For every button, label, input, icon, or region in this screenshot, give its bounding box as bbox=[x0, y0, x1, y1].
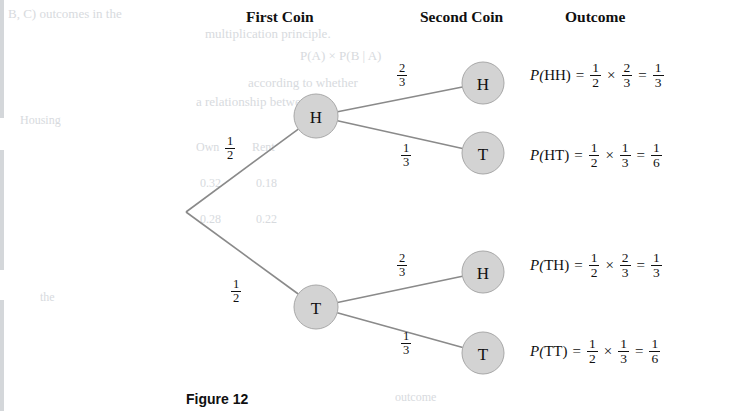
branch-probability-fraction: 23 bbox=[397, 62, 407, 89]
probability-close-paren: ) bbox=[566, 67, 571, 84]
fraction-denominator: 3 bbox=[653, 76, 664, 90]
outcome-factor-one: 12 bbox=[589, 141, 600, 170]
outcome-event-label: TT bbox=[544, 343, 562, 360]
equals-sign-result: = bbox=[637, 257, 645, 274]
outcome-factor-one: 12 bbox=[587, 337, 598, 366]
probability-function-label: P( bbox=[530, 257, 544, 274]
branch-h-to-h bbox=[338, 87, 463, 112]
outcome-event-label: HH bbox=[544, 67, 566, 84]
outcome-equation-p-hh: P(HH)=12×23=13 bbox=[530, 61, 665, 90]
branch-probability-fraction: 13 bbox=[401, 142, 411, 169]
branch-probability-h-to-t: 13 bbox=[400, 142, 412, 169]
fraction-denominator: 2 bbox=[590, 76, 601, 90]
fraction-numerator: 1 bbox=[589, 141, 600, 156]
fraction-denominator: 2 bbox=[225, 149, 235, 162]
node-label-tt: T bbox=[478, 345, 489, 364]
fraction-numerator: 1 bbox=[401, 142, 411, 156]
outcome-factor-two: 23 bbox=[620, 251, 631, 280]
probability-close-paren: ) bbox=[564, 257, 569, 274]
probability-function-label: P( bbox=[530, 147, 544, 164]
probability-function-label: P( bbox=[530, 67, 544, 84]
fraction-numerator: 1 bbox=[401, 330, 411, 344]
fraction-denominator: 3 bbox=[622, 76, 633, 90]
fraction-numerator: 2 bbox=[622, 61, 633, 76]
tree-node-t1: T bbox=[294, 285, 338, 329]
column-heading-outcome: Outcome bbox=[565, 8, 625, 26]
branch-probability-fraction: 12 bbox=[231, 278, 241, 305]
branch-probability-h-to-h: 23 bbox=[396, 62, 408, 89]
fraction-denominator: 3 bbox=[620, 266, 631, 280]
equals-sign: = bbox=[574, 147, 582, 164]
fraction-denominator: 2 bbox=[231, 292, 241, 305]
node-label-h1: H bbox=[310, 108, 322, 127]
column-heading-first-coin: First Coin bbox=[246, 8, 314, 26]
figure-caption: Figure 12 bbox=[186, 391, 248, 407]
tree-node-th: H bbox=[462, 251, 504, 293]
branch-probability-fraction: 23 bbox=[397, 252, 407, 279]
tree-node-ht: T bbox=[462, 132, 504, 174]
fraction-denominator: 3 bbox=[651, 266, 662, 280]
fraction-denominator: 3 bbox=[618, 352, 629, 366]
fraction-numerator: 1 bbox=[225, 135, 235, 149]
column-heading-second-coin: Second Coin bbox=[420, 8, 503, 26]
equals-sign: = bbox=[574, 257, 582, 274]
fraction-numerator: 1 bbox=[620, 141, 631, 156]
fraction-numerator: 1 bbox=[651, 141, 662, 156]
fraction-numerator: 1 bbox=[589, 251, 600, 266]
tree-nodes: HTHTHT bbox=[294, 62, 504, 374]
fraction-numerator: 1 bbox=[231, 278, 241, 292]
branch-probability-t-to-h: 23 bbox=[396, 252, 408, 279]
multiplication-sign: × bbox=[604, 343, 612, 360]
tree-node-tt: T bbox=[462, 332, 504, 374]
outcome-event-label: TH bbox=[544, 257, 564, 274]
fraction-numerator: 1 bbox=[653, 61, 664, 76]
branch-probability-fraction: 12 bbox=[225, 135, 235, 162]
fraction-denominator: 3 bbox=[397, 266, 407, 279]
equals-sign-result: = bbox=[638, 67, 646, 84]
tree-node-h1: H bbox=[294, 94, 338, 138]
fraction-denominator: 3 bbox=[401, 344, 411, 357]
outcome-equation-p-tt: P(TT)=12×13=16 bbox=[530, 337, 661, 366]
multiplication-sign: × bbox=[605, 257, 613, 274]
fraction-numerator: 1 bbox=[651, 251, 662, 266]
fraction-numerator: 2 bbox=[620, 251, 631, 266]
fraction-numerator: 2 bbox=[397, 62, 407, 76]
fraction-numerator: 1 bbox=[590, 61, 601, 76]
fraction-denominator: 2 bbox=[587, 352, 598, 366]
outcome-factor-one: 12 bbox=[590, 61, 601, 90]
outcome-factor-two: 13 bbox=[618, 337, 629, 366]
node-label-t1: T bbox=[311, 299, 322, 318]
outcome-factor-one: 12 bbox=[589, 251, 600, 280]
fraction-denominator: 6 bbox=[649, 352, 660, 366]
node-label-th: H bbox=[477, 264, 489, 283]
fraction-numerator: 1 bbox=[649, 337, 660, 352]
fraction-denominator: 3 bbox=[397, 76, 407, 89]
fraction-denominator: 3 bbox=[401, 156, 411, 169]
fraction-denominator: 3 bbox=[620, 156, 631, 170]
outcome-result: 13 bbox=[653, 61, 664, 90]
branch-probability-root-to-t: 12 bbox=[230, 278, 242, 305]
outcome-equation-p-ht: P(HT)=12×13=16 bbox=[530, 141, 663, 170]
equals-sign-result: = bbox=[635, 343, 643, 360]
tree-node-hh: H bbox=[462, 62, 504, 104]
fraction-denominator: 2 bbox=[589, 156, 600, 170]
multiplication-sign: × bbox=[605, 147, 613, 164]
fraction-denominator: 6 bbox=[651, 156, 662, 170]
equals-sign: = bbox=[576, 67, 584, 84]
node-label-hh: H bbox=[477, 75, 489, 94]
node-label-ht: T bbox=[478, 145, 489, 164]
probability-function-label: P( bbox=[530, 343, 544, 360]
outcome-factor-two: 13 bbox=[620, 141, 631, 170]
outcome-event-label: HT bbox=[544, 147, 564, 164]
equals-sign: = bbox=[573, 343, 581, 360]
fraction-numerator: 1 bbox=[618, 337, 629, 352]
equals-sign-result: = bbox=[637, 147, 645, 164]
column-heading-first-coin-label: First Coin bbox=[246, 8, 314, 25]
branch-probability-root-to-h: 12 bbox=[224, 135, 236, 162]
branch-probability-t-to-t: 13 bbox=[400, 330, 412, 357]
outcome-factor-two: 23 bbox=[622, 61, 633, 90]
outcome-result: 16 bbox=[649, 337, 660, 366]
fraction-numerator: 2 bbox=[397, 252, 407, 266]
probability-close-paren: ) bbox=[564, 147, 569, 164]
outcome-equation-p-th: P(TH)=12×23=13 bbox=[530, 251, 663, 280]
